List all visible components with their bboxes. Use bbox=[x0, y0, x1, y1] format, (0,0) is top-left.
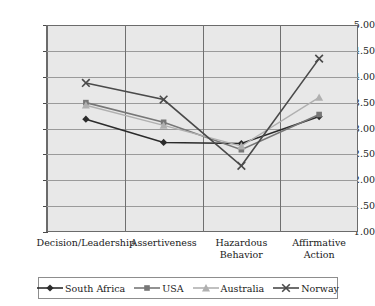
data-point-x bbox=[238, 162, 246, 170]
data-point-diamond bbox=[160, 139, 167, 146]
series-norway bbox=[82, 55, 323, 170]
plot-area bbox=[47, 25, 358, 232]
x-axis-label-line: Action bbox=[266, 249, 372, 261]
legend-item-norway[interactable]: Norway bbox=[273, 282, 339, 294]
legend-swatch-triangle-icon bbox=[193, 282, 219, 294]
legend-label: Australia bbox=[221, 283, 265, 294]
legend: South AfricaUSAAustraliaNorway bbox=[38, 277, 338, 299]
legend-item-south-africa[interactable]: South Africa bbox=[37, 282, 125, 294]
data-point-square bbox=[316, 112, 322, 118]
data-point-diamond bbox=[82, 116, 89, 123]
data-point-diamond bbox=[46, 284, 53, 291]
legend-item-australia[interactable]: Australia bbox=[193, 282, 265, 294]
data-point-x bbox=[315, 55, 323, 63]
data-point-triangle bbox=[315, 93, 323, 100]
series-line bbox=[86, 97, 319, 146]
legend-swatch-square-icon bbox=[134, 282, 160, 294]
legend-label: USA bbox=[162, 283, 183, 294]
legend-swatch-diamond-icon bbox=[37, 282, 63, 294]
legend-label: South Africa bbox=[65, 283, 125, 294]
x-axis-label-line: Affirmative bbox=[266, 237, 372, 249]
y-axis-tick-mark bbox=[43, 232, 48, 233]
series-usa bbox=[83, 100, 322, 153]
series-layer bbox=[47, 25, 358, 232]
x-axis-label: AffirmativeAction bbox=[266, 237, 372, 260]
legend-swatch-x-icon bbox=[273, 282, 299, 294]
data-point-square bbox=[144, 285, 150, 291]
line-chart: 5.004.504.003.503.002.502.001.501.00 Dec… bbox=[0, 0, 375, 306]
legend-item-usa[interactable]: USA bbox=[134, 282, 183, 294]
legend-label: Norway bbox=[301, 283, 339, 294]
data-point-triangle bbox=[82, 101, 90, 108]
